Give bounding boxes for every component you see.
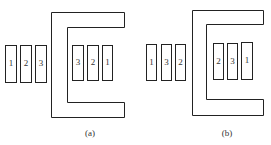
coil-label: 1 bbox=[245, 55, 250, 65]
coil-label: 1 bbox=[105, 57, 110, 67]
figure-b: 1 3 2 2 3 1 (b) bbox=[147, 11, 264, 139]
coil-label: 3 bbox=[39, 58, 44, 68]
coil-label: 3 bbox=[76, 57, 81, 67]
coil-label: 3 bbox=[164, 57, 169, 67]
left-coils-b: 1 3 2 bbox=[147, 45, 186, 81]
coil-label: 1 bbox=[9, 58, 14, 68]
left-coils-a: 1 2 3 bbox=[6, 46, 47, 83]
diagram-canvas: 1 2 3 3 2 1 (a) 1 3 2 2 bbox=[0, 0, 271, 145]
figure-a: 1 2 3 3 2 1 (a) bbox=[6, 13, 125, 139]
right-coils-b: 2 3 1 bbox=[214, 43, 253, 80]
coil-label: 2 bbox=[178, 57, 183, 67]
coil-label: 1 bbox=[149, 57, 154, 67]
coil-label: 2 bbox=[91, 57, 96, 67]
caption-b: (b) bbox=[222, 128, 233, 138]
right-coils-a: 3 2 1 bbox=[73, 46, 113, 81]
coil-label: 2 bbox=[24, 58, 29, 68]
caption-a: (a) bbox=[85, 128, 95, 138]
coil-label: 2 bbox=[216, 56, 221, 66]
coil-label: 3 bbox=[230, 56, 235, 66]
